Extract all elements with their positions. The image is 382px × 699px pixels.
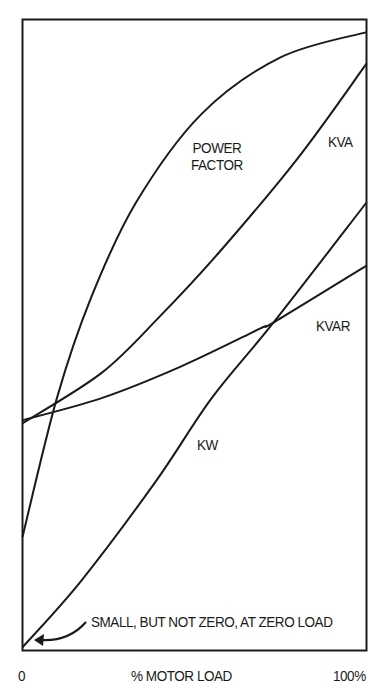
chart-plot [0, 0, 382, 699]
kva-label: KVA [328, 133, 353, 150]
factor-label-line: FACTOR [191, 156, 243, 173]
kva-curve [23, 64, 367, 424]
power-factor-label: POWER FACTOR [191, 139, 243, 173]
zero-load-annotation: SMALL, BUT NOT ZERO, AT ZERO LOAD [91, 613, 332, 630]
plot-frame [23, 20, 367, 651]
power-label-line: POWER [191, 139, 243, 156]
kvar-label: KVAR [316, 317, 350, 334]
x-tick-100: 100% [333, 667, 366, 684]
kw-label: KW [197, 436, 218, 453]
x-axis-title: % MOTOR LOAD [131, 667, 232, 684]
kw-curve [23, 203, 367, 648]
x-tick-0: 0 [18, 667, 25, 684]
power-factor-curve [23, 32, 367, 537]
